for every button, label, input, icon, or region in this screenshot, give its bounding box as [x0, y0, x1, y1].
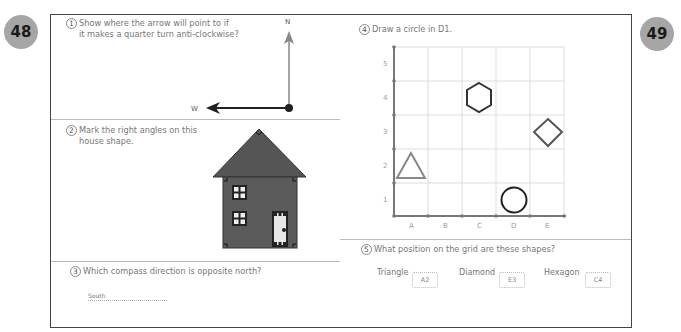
col-label: B	[443, 221, 448, 232]
diamond-shape	[534, 119, 562, 146]
col-label: A	[409, 221, 414, 232]
row-label: 5	[383, 59, 387, 70]
row-label: 2	[383, 161, 387, 172]
row-label: 1	[383, 195, 387, 206]
diamond-label: Diamond	[459, 268, 495, 277]
row-label: 4	[383, 93, 387, 104]
diamond-answer-box[interactable]: E3	[499, 272, 525, 288]
hexagon-label: Hexagon	[544, 268, 579, 277]
triangle-shape	[397, 153, 425, 178]
circle-shape	[502, 188, 527, 213]
triangle-label: Triangle	[377, 268, 408, 277]
col-label: D	[511, 221, 516, 232]
col-label: E	[545, 221, 549, 232]
hexagon-shape	[467, 83, 491, 112]
triangle-answer-box[interactable]: A2	[412, 272, 438, 288]
q5-prompt: 5What position on the grid are these sha…	[361, 244, 555, 255]
hexagon-answer-box[interactable]: C4	[585, 272, 611, 288]
col-label: C	[477, 221, 482, 232]
q5-number: 5	[361, 244, 372, 255]
coordinate-grid[interactable]	[0, 0, 681, 332]
row-label: 3	[383, 127, 387, 138]
